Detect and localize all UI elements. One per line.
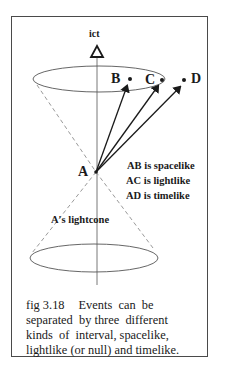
event-dot-d [182,78,186,82]
statement-ac-lightlike: AC is lightlike [126,173,195,188]
interval-statements: AB is spacelike AC is lightlike AD is ti… [127,158,195,203]
axis-arrow-icon [91,46,103,57]
caption-line-4: lightlike (or null) and timelike. [26,343,206,358]
event-label-b: B [111,72,120,86]
event-label-d: D [191,72,201,86]
lightcone-label: A's lightcone [51,215,109,226]
statement-ab-spacelike: AB is spacelike [127,158,195,173]
event-dot-a [94,170,98,174]
figure-number: fig 3.18 [26,298,65,312]
event-dot-c [160,78,164,82]
caption-text-1: Events can be [79,298,154,312]
arrow-a-to-b [96,86,127,172]
caption-line-3: kinds of interval, spacelike, [26,328,206,343]
caption-line-1: fig 3.18Events can be [26,298,206,313]
axis-label-ict: ict [89,29,100,39]
event-label-c: C [145,73,155,87]
caption-line-2: separated by three different [26,313,206,328]
figure-caption: fig 3.18Events can be separated by three… [26,298,206,358]
cone-edge-lower-left [32,172,96,253]
event-label-a: A [78,165,88,179]
statement-ad-timelike: AD is timelike [126,188,195,203]
event-dot-b [128,77,132,81]
cone-edge-upper-left [37,85,96,172]
past-cone-ellipse [30,244,158,272]
